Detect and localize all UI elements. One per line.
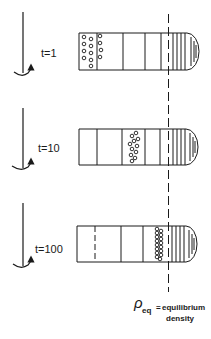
particles	[82, 34, 103, 68]
centrifuge-tube	[77, 226, 197, 262]
time-label: t=10	[38, 142, 60, 154]
rotation-arrow-icon	[12, 108, 31, 169]
time-label: t=100	[35, 243, 63, 255]
rotation-arrow-icon	[13, 203, 31, 267]
equilibrium-density-label: ρ eq = equilibrium density	[133, 294, 205, 323]
particles	[155, 227, 163, 261]
equilibrium-text: equilibrium	[162, 303, 205, 312]
eq-subscript: eq	[142, 306, 151, 315]
rotation-arrow-icon	[14, 12, 31, 75]
panel-t1: t=1	[14, 12, 199, 75]
panel-t100: t=100	[13, 203, 197, 267]
sedimentation-diagram: t=1	[0, 0, 211, 339]
centrifuge-tube	[79, 33, 199, 70]
density-text: density	[166, 314, 195, 323]
time-label: t=1	[41, 47, 57, 59]
particles	[128, 131, 140, 163]
panel-t10: t=10	[12, 108, 198, 169]
equals-sign: =	[156, 303, 161, 312]
